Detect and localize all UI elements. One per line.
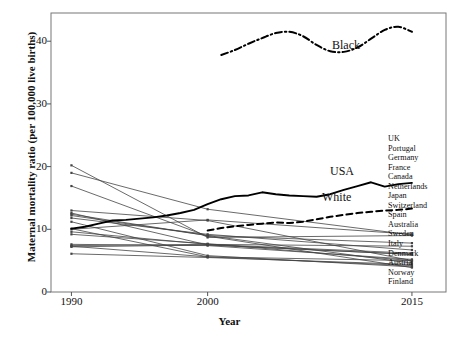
- plot-frame: [51, 13, 446, 292]
- x-axis-tick-label: 1990: [41, 295, 101, 307]
- series-label-black: Black: [332, 38, 360, 53]
- data-point-marker: [70, 243, 72, 245]
- series-line-black: [221, 27, 412, 55]
- y-axis-tick-label: 10: [7, 223, 47, 234]
- data-point-marker: [70, 164, 72, 166]
- maternal-mortality-chart: Maternal mortality ratio (per 100,000 li…: [0, 0, 459, 338]
- data-point-marker: [70, 221, 72, 223]
- data-point-marker: [70, 217, 72, 219]
- country-series-line: [71, 234, 412, 260]
- series-line-usa: [71, 182, 412, 228]
- country-legend-item: Spain: [388, 210, 428, 220]
- data-point-marker: [207, 234, 209, 236]
- country-legend-item: Italy: [388, 239, 428, 249]
- country-legend-item: Portugal: [388, 144, 428, 154]
- country-legend-item: Denmark: [388, 249, 428, 259]
- country-legend-item: Austria: [388, 258, 428, 268]
- x-axis-title: Year: [0, 315, 459, 327]
- country-legend-item: Switzerland: [388, 201, 428, 211]
- y-axis-tick-label: 40: [7, 35, 47, 46]
- data-point-marker: [207, 219, 209, 221]
- country-legend-item: UK: [388, 134, 428, 144]
- data-point-marker: [70, 172, 72, 174]
- country-legend-item: Sweden: [388, 229, 428, 239]
- series-label-usa: USA: [330, 164, 354, 179]
- country-legend-item: France: [388, 163, 428, 173]
- data-point-marker: [207, 243, 209, 245]
- y-axis-tick-label: 20: [7, 161, 47, 172]
- country-series-line: [71, 210, 412, 260]
- country-legend-item: Netherlands: [388, 182, 428, 192]
- data-point-marker: [70, 246, 72, 248]
- series-label-white: White: [322, 190, 351, 205]
- x-axis-tick-label: 2000: [178, 295, 238, 307]
- country-legend-item: Australia: [388, 220, 428, 230]
- data-point-marker: [70, 213, 72, 215]
- y-axis-tick-label: 30: [7, 98, 47, 109]
- data-point-marker: [70, 209, 72, 211]
- x-axis-tick-label: 2015: [382, 295, 442, 307]
- data-point-marker: [70, 253, 72, 255]
- country-series-line: [71, 254, 412, 265]
- data-point-marker: [70, 185, 72, 187]
- country-legend-item: Japan: [388, 191, 428, 201]
- y-axis-tick-labels: 010203040: [5, 0, 47, 338]
- country-legend-item: Norway: [388, 268, 428, 278]
- data-point-marker: [207, 208, 209, 210]
- country-series-line: [71, 165, 412, 237]
- country-legend-item: Germany: [388, 153, 428, 163]
- country-legend-list: UKPortugalGermanyFranceCanadaNetherlands…: [388, 134, 428, 287]
- data-point-marker: [207, 255, 209, 257]
- country-legend-item: Finland: [388, 277, 428, 287]
- data-point-marker: [70, 233, 72, 235]
- data-point-marker: [70, 231, 72, 233]
- country-legend-item: Canada: [388, 172, 428, 182]
